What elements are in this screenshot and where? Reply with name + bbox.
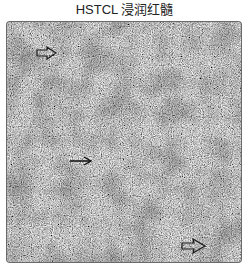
- arrow-icon-upper-left: [36, 46, 58, 60]
- arrow-icon-lower-right: [181, 238, 207, 254]
- micrograph-image: [7, 22, 241, 262]
- arrow-icon-center: [69, 156, 93, 166]
- figure-title: HSTCL 浸润红髓: [0, 2, 249, 18]
